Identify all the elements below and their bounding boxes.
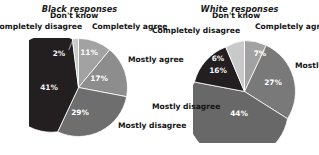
value-white-mostly-disagree: 44% — [230, 110, 248, 118]
value-white-completely-disagree: 16% — [209, 67, 227, 75]
callout-label-mostly-agree: Mostly agree — [295, 61, 319, 70]
callout-label-completely-disagree: Completely disagree — [152, 26, 240, 35]
pie-chart-figure: Black responses Don't know Comp — [0, 0, 319, 155]
pie-white-responses — [193, 40, 296, 143]
callout-white-dont-know: Don't know — [212, 12, 256, 21]
value-black-dont-know: 2% — [53, 50, 66, 58]
value-white-dont-know: 6% — [212, 55, 225, 63]
callout-white-completely-disagree: Completely disagree — [152, 27, 214, 36]
callout-label-completely-disagree: Completely disagree — [0, 22, 82, 31]
callout-white-mostly-agree: Mostly agree — [295, 62, 319, 71]
callout-white-completely-agree: Completely agree — [255, 23, 319, 32]
chart-panel-black-responses: Black responses Don't know Comp — [0, 0, 159, 155]
callout-label-dont-know: Don't know — [50, 11, 98, 20]
callout-label-completely-agree: Completely agree — [255, 22, 319, 31]
value-black-mostly-disagree: 29% — [71, 109, 89, 117]
value-white-completely-agree: 7% — [254, 50, 267, 58]
callout-black-completely-agree: Completely agree — [92, 23, 156, 32]
pie-svg-white — [193, 40, 296, 143]
chart-panel-white-responses: White responses Don't know Completely ag… — [160, 0, 319, 155]
value-black-mostly-agree: 17% — [90, 75, 108, 83]
callout-label-dont-know: Don't know — [212, 11, 260, 20]
value-black-completely-disagree: 41% — [40, 84, 58, 92]
callout-black-dont-know: Don't know — [50, 12, 94, 21]
callout-label-mostly-disagree: Mostly disagree — [152, 102, 220, 111]
value-white-mostly-agree: 27% — [264, 79, 282, 87]
callout-black-completely-disagree: Completely disagree — [0, 23, 56, 32]
value-black-completely-agree: 11% — [80, 49, 98, 57]
callout-white-mostly-disagree: Mostly disagree — [152, 103, 204, 112]
callout-black-mostly-disagree: Mostly disagree — [118, 122, 166, 131]
